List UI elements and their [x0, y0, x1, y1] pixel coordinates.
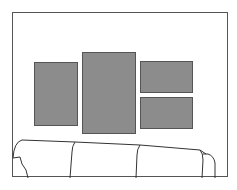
sofa-outline	[0, 0, 237, 190]
